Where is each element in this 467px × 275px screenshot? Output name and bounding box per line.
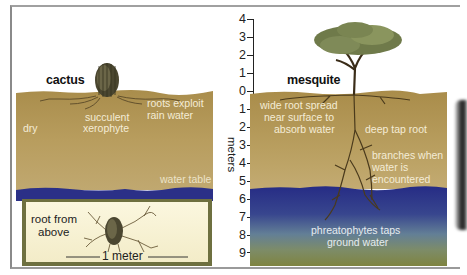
label-encountered: encountered	[372, 174, 430, 185]
label-branches-when: branches when	[372, 150, 443, 161]
label-near-surface: near surface to	[264, 112, 334, 123]
label-deep-tap-root: deep tap root	[365, 124, 427, 135]
label-wide-root-spread: wide root spread	[260, 100, 338, 111]
label-absorb-water: absorb water	[274, 124, 335, 135]
label-water-is: water is	[372, 162, 408, 173]
mesquite-title: mesquite	[287, 73, 340, 87]
label-ground-water: ground water	[327, 237, 388, 248]
label-phreatophytes: phreatophytes taps	[311, 225, 400, 236]
